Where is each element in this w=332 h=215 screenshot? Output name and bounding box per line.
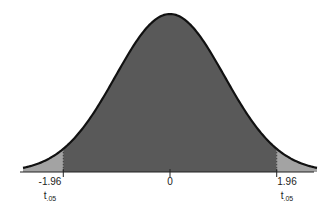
center-region [63, 14, 276, 172]
tick-label-left: -1.96 [30, 176, 70, 187]
t-subscript: .05 [47, 195, 57, 202]
t-label-left: t.05 [30, 190, 70, 201]
tick-label-center: 0 [150, 176, 190, 187]
tick-label-right: 1.96 [267, 176, 307, 187]
t-subscript: .05 [284, 195, 294, 202]
t-label-right: t.05 [267, 190, 307, 201]
